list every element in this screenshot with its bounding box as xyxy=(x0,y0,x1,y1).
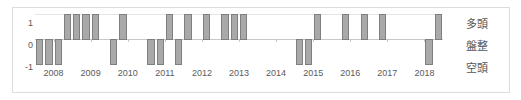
x-axis-label-2015: 2015 xyxy=(303,68,323,79)
x-axis-label-2013: 2013 xyxy=(229,68,249,79)
chart-figure: 1 0 -1 200820092010201120122013201420152… xyxy=(0,0,521,100)
bar-2013Q3 xyxy=(240,14,247,40)
x-axis-label-2009: 2009 xyxy=(81,68,101,79)
x-axis-label-2017: 2017 xyxy=(377,68,397,79)
bar-2009Q2 xyxy=(82,14,89,40)
x-axis-label-2010: 2010 xyxy=(118,68,138,79)
x-axis-tick-2011 xyxy=(165,39,166,42)
x-axis-label-2012: 2012 xyxy=(192,68,212,79)
bar-2008Q1 xyxy=(36,39,43,65)
bar-2011Q2 xyxy=(157,39,164,65)
legend-label-consolidation: 盤整 xyxy=(466,41,488,53)
x-axis-label-2011: 2011 xyxy=(155,68,174,79)
bar-2018Q3 xyxy=(425,39,432,65)
bar-2013Q1 xyxy=(221,14,228,40)
bar-2009Q1 xyxy=(73,14,80,40)
x-axis-tick-2013 xyxy=(239,39,240,42)
bar-2008Q4 xyxy=(64,14,71,40)
bar-2009Q3 xyxy=(92,14,99,40)
plot-area xyxy=(35,14,443,64)
y-axis-tick-labels: 1 0 -1 xyxy=(16,9,33,71)
bar-2018Q4 xyxy=(435,14,442,40)
x-axis-tick-labels: 2008200920102011201220132014201520162017… xyxy=(35,68,443,82)
bar-2011Q4 xyxy=(175,39,182,65)
bar-2008Q3 xyxy=(55,39,62,65)
y-axis-tick-1: 1 xyxy=(16,19,33,28)
bar-2010Q1 xyxy=(110,39,117,65)
bar-2017Q2 xyxy=(379,14,386,40)
x-axis-tick-2015 xyxy=(313,39,314,42)
bar-2008Q2 xyxy=(45,39,52,65)
legend-label-bearish: 空頭 xyxy=(466,63,488,75)
bar-2011Q3 xyxy=(166,14,173,40)
x-axis-tick-2018 xyxy=(424,39,425,42)
bar-2010Q2 xyxy=(119,14,126,40)
bar-2013Q2 xyxy=(231,14,238,40)
category-legend: 多頭 盤整 空頭 xyxy=(466,11,510,81)
bar-2016Q2 xyxy=(342,14,349,40)
x-axis-tick-2010 xyxy=(128,39,129,42)
bar-2012Q3 xyxy=(203,14,210,40)
y-axis-tick-neg1: -1 xyxy=(16,63,33,72)
x-axis-label-2018: 2018 xyxy=(414,68,434,79)
legend-label-bullish: 多頭 xyxy=(466,19,488,31)
x-axis-tick-2008 xyxy=(54,39,55,42)
bar-2016Q4 xyxy=(361,14,368,40)
x-axis-label-2016: 2016 xyxy=(340,68,360,79)
x-axis-tick-2016 xyxy=(350,39,351,42)
x-axis-tick-2014 xyxy=(276,39,277,42)
bar-2015Q1 xyxy=(296,39,303,65)
bar-2012Q1 xyxy=(184,14,191,40)
x-axis-label-2008: 2008 xyxy=(44,68,64,79)
x-axis-tick-2017 xyxy=(387,39,388,42)
bar-2015Q2 xyxy=(305,39,312,65)
bar-2015Q3 xyxy=(314,14,321,40)
bar-2011Q1 xyxy=(147,39,154,65)
x-axis-tick-2009 xyxy=(91,39,92,42)
x-axis-tick-2012 xyxy=(202,39,203,42)
y-axis-tick-0: 0 xyxy=(16,41,33,50)
x-axis-label-2014: 2014 xyxy=(266,68,286,79)
